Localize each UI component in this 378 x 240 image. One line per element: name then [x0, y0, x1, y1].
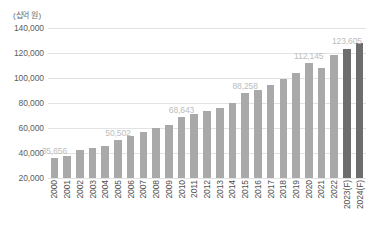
bar — [241, 93, 249, 178]
y-axis-tick-label: 140,000 — [14, 23, 44, 33]
bar-value-label: 88,258 — [232, 81, 257, 91]
bar — [318, 68, 326, 178]
bar-value-label: 68,643 — [169, 105, 194, 115]
x-axis-tick-label: 2018 — [278, 180, 288, 199]
bar-slot — [190, 28, 198, 178]
bar — [165, 125, 173, 178]
bar — [127, 136, 135, 178]
bar-slot — [127, 28, 135, 178]
x-axis-tick-label: 2023(F) — [342, 180, 352, 209]
bar — [254, 90, 262, 178]
bar-forecast — [343, 49, 351, 179]
bar-value-label: 35,656 — [42, 146, 67, 156]
x-axis-tick-label: 2017 — [266, 180, 276, 199]
x-axis-tick-label: 2015 — [240, 180, 250, 199]
bar-slot — [241, 28, 249, 178]
bar-slot — [203, 28, 211, 178]
bar — [216, 108, 224, 178]
bar-slot — [101, 28, 109, 178]
bar-slot — [165, 28, 173, 178]
x-axis-tick-label: 2000 — [49, 180, 59, 199]
x-axis-tick-label: 2011 — [189, 180, 199, 198]
x-axis-tick-label: 2002 — [75, 180, 85, 199]
y-axis-tick-label: 60,000 — [19, 123, 44, 133]
bar-slot — [356, 28, 364, 178]
x-axis-tick-label: 2014 — [227, 180, 237, 199]
y-axis-tick-label: 80,000 — [19, 98, 44, 108]
x-axis-tick-label: 2006 — [126, 180, 136, 199]
bar-value-label: 50,502 — [105, 128, 130, 138]
bar-slot — [343, 28, 351, 178]
y-axis: 20,00040,00060,00080,000100,000120,00014… — [0, 28, 44, 178]
bar-slot — [254, 28, 262, 178]
bar-chart: (십억 원) 20,00040,00060,00080,000100,00012… — [0, 0, 378, 240]
y-axis-unit-label: (십억 원) — [13, 9, 41, 20]
x-axis-tick-label: 2010 — [177, 180, 187, 199]
bar — [292, 73, 300, 178]
bar-slot — [267, 28, 275, 178]
bar-slot — [229, 28, 237, 178]
x-axis-tick-label: 2007 — [138, 180, 148, 199]
bar-forecast — [356, 43, 364, 179]
bar — [203, 111, 211, 178]
plot-area: 35,65650,50268,64388,258112,145123,605 — [48, 28, 366, 178]
y-axis-tick-label: 100,000 — [14, 73, 44, 83]
bar-slot — [76, 28, 84, 178]
x-axis-tick-label: 2022 — [329, 180, 339, 199]
x-axis-tick-label: 2019 — [291, 180, 301, 199]
bar — [229, 103, 237, 178]
bar — [152, 128, 160, 178]
bar — [330, 55, 338, 178]
bar — [190, 114, 198, 178]
bar-value-label: 112,145 — [294, 51, 323, 61]
y-axis-tick-label: 20,000 — [19, 173, 44, 183]
bar — [267, 85, 275, 179]
bar — [178, 117, 186, 178]
x-axis-tick-label: 2003 — [88, 180, 98, 199]
bar-slot — [330, 28, 338, 178]
bar — [51, 158, 59, 178]
x-axis-tick-label: 2001 — [62, 180, 72, 199]
bar-slot — [89, 28, 97, 178]
x-axis-tick-label: 2016 — [253, 180, 263, 199]
x-axis-tick-label: 2024(F) — [355, 180, 365, 209]
x-axis-tick-label: 2009 — [164, 180, 174, 199]
x-axis-tick-label: 2004 — [100, 180, 110, 199]
x-axis-tick-label: 2012 — [202, 180, 212, 199]
y-axis-tick-label: 40,000 — [19, 148, 44, 158]
bar — [101, 146, 109, 178]
bar-value-label: 123,605 — [332, 36, 362, 46]
bar-slot — [178, 28, 186, 178]
bar — [114, 140, 122, 178]
bar — [76, 150, 84, 178]
bar-slot — [114, 28, 122, 178]
x-axis-tick-label: 2021 — [316, 180, 326, 199]
bar — [140, 132, 148, 178]
bar — [305, 63, 313, 178]
bar-slot — [216, 28, 224, 178]
bar — [280, 79, 288, 179]
bar-slot — [152, 28, 160, 178]
bar-slot — [280, 28, 288, 178]
x-axis-tick-label: 2005 — [113, 180, 123, 199]
bar — [63, 156, 71, 178]
bar — [89, 148, 97, 178]
bar-slot — [140, 28, 148, 178]
x-axis-tick-label: 2013 — [215, 180, 225, 199]
x-axis-tick-label: 2020 — [304, 180, 314, 199]
y-axis-tick-label: 120,000 — [14, 48, 44, 58]
x-axis-tick-label: 2008 — [151, 180, 161, 199]
x-axis: 2000200120022003200420052006200720082009… — [48, 180, 366, 238]
